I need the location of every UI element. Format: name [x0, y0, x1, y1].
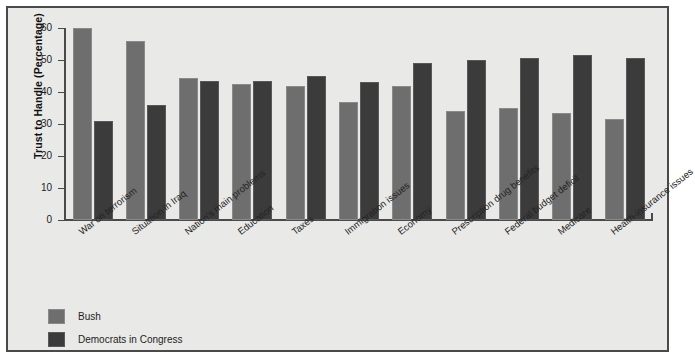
legend-item-democrats: Democrats in Congress [48, 329, 182, 349]
bar-democrats [200, 81, 219, 220]
y-tick-label-20: 20 [12, 151, 52, 161]
bar-democrats [253, 81, 272, 220]
legend-swatch-democrats [48, 332, 65, 347]
legend-item-bush: Bush [48, 306, 182, 326]
y-tick-label-30: 30 [12, 119, 52, 129]
chart-figure: Trust to Handle (Percentage) 01020304050… [6, 6, 669, 352]
bar-democrats [626, 58, 645, 220]
x-axis-category-labels: War on terrorismSituation in IraqNation'… [8, 221, 671, 316]
bar-bush [286, 86, 305, 220]
bar-democrats [573, 55, 592, 220]
y-tick-label-60: 60 [12, 23, 52, 33]
y-tick-label-40: 40 [12, 87, 52, 97]
bar-democrats [467, 60, 486, 220]
legend-swatch-bush [48, 309, 65, 324]
bar-bush [446, 111, 465, 220]
bar-bush [339, 102, 358, 220]
bar-democrats [307, 76, 326, 220]
y-tick-label-10: 10 [12, 183, 52, 193]
bar-bush [73, 28, 92, 220]
bar-bush [605, 119, 624, 220]
bar-democrats [520, 58, 539, 220]
bar-bush [499, 108, 518, 220]
bar-democrats [360, 82, 379, 220]
bar-democrats [413, 63, 432, 220]
legend-label-democrats: Democrats in Congress [78, 334, 182, 345]
y-tick-label-50: 50 [12, 55, 52, 65]
legend-label-bush: Bush [78, 311, 101, 322]
chart-legend: Bush Democrats in Congress [48, 306, 182, 352]
bar-bush [552, 113, 571, 220]
